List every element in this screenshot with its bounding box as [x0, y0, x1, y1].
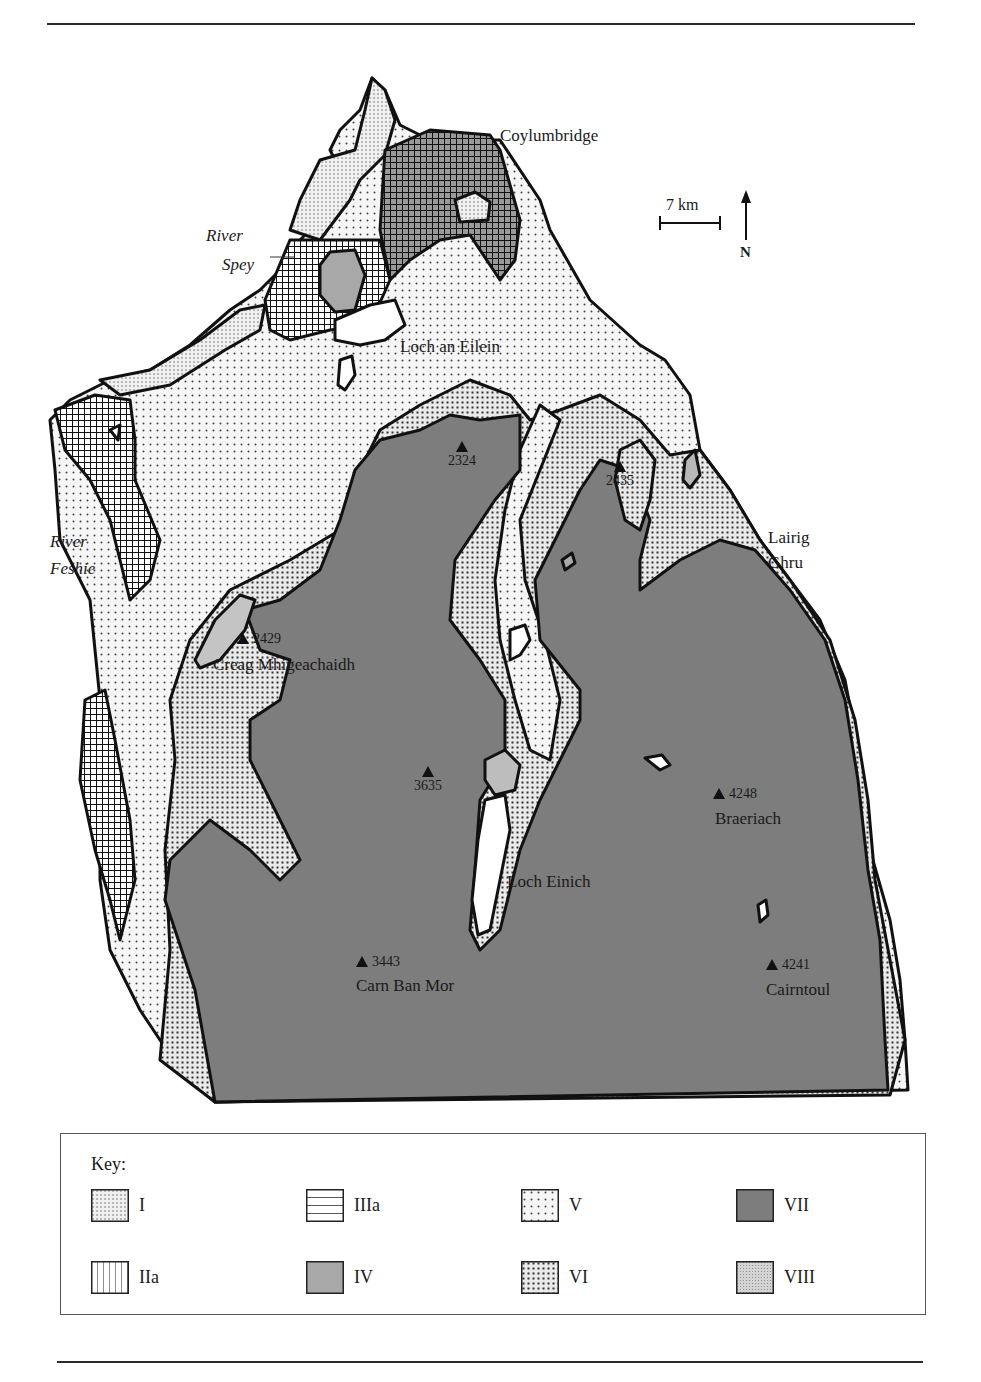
key-item-IV: IV — [306, 1261, 373, 1294]
peak-height: 4241 — [782, 957, 810, 972]
key-label: VII — [784, 1195, 809, 1216]
place-label-loch-an-eilein: Loch an Eilein — [400, 338, 500, 355]
peak-triangle-icon — [766, 959, 778, 970]
key-item-V: V — [521, 1189, 582, 1222]
north-arrow-icon — [741, 190, 751, 240]
scale-bar — [660, 216, 720, 230]
key-swatch-VIII — [736, 1261, 774, 1294]
peak-triangle-icon — [237, 633, 249, 644]
key-swatch-IIa — [91, 1261, 129, 1294]
peak-height: 2429 — [253, 631, 281, 646]
peak-4248: 4248 — [713, 787, 757, 801]
key-item-VI: VI — [521, 1261, 588, 1294]
key-label: V — [569, 1195, 582, 1216]
peak-triangle-icon — [614, 461, 626, 472]
key-label: IIIa — [354, 1195, 380, 1216]
place-label-lairig-ghru-2: Ghru — [768, 554, 803, 571]
peak-3635: 3635 — [414, 766, 442, 793]
key-item-VII: VII — [736, 1189, 809, 1222]
place-label-loch-einich: Loch Einich — [507, 873, 591, 890]
peak-height: 3443 — [372, 954, 400, 969]
north-label: N — [740, 245, 751, 260]
key-swatch-V — [521, 1189, 559, 1222]
place-label-river-feshie-1: River — [50, 533, 87, 550]
peak-height: 3635 — [414, 778, 442, 793]
place-label-braeriach: Braeriach — [715, 810, 781, 827]
peak-triangle-icon — [456, 441, 468, 452]
key-swatch-VI — [521, 1261, 559, 1294]
key-item-VIII: VIII — [736, 1261, 815, 1294]
peak-2324: 2324 — [448, 441, 476, 468]
key-swatch-IIIa — [306, 1189, 344, 1222]
scale-bar-label: 7 km — [666, 197, 698, 213]
place-label-river-spey-1: River — [206, 227, 243, 244]
peak-triangle-icon — [356, 956, 368, 967]
place-label-lairig-ghru-1: Lairig — [768, 529, 810, 546]
key-item-IIa: IIa — [91, 1261, 159, 1294]
place-label-carn-ban-mor: Carn Ban Mor — [356, 977, 454, 994]
key-title: Key: — [91, 1154, 126, 1175]
vegetation-map — [0, 0, 981, 1130]
peak-triangle-icon — [422, 766, 434, 777]
key-item-I: I — [91, 1189, 145, 1222]
key-swatch-VII — [736, 1189, 774, 1222]
place-label-river-spey-2: Spey — [222, 256, 254, 273]
key-item-IIIa: IIIa — [306, 1189, 380, 1222]
peak-height: 4248 — [729, 786, 757, 801]
key-swatch-IV — [306, 1261, 344, 1294]
peak-4241: 4241 — [766, 958, 810, 972]
bottom-rule — [57, 1361, 923, 1363]
peak-3443: 3443 — [356, 955, 400, 969]
key-label: IV — [354, 1267, 373, 1288]
peak-height: 2435 — [606, 473, 634, 488]
key-swatch-I — [91, 1189, 129, 1222]
peak-triangle-icon — [713, 788, 725, 799]
place-label-creag-mhigeachaidh: Creag Mhigeachaidh — [213, 656, 355, 673]
key-label: VI — [569, 1267, 588, 1288]
key-label: I — [139, 1195, 145, 1216]
zone-IV-spey — [320, 250, 365, 312]
key-label: IIa — [139, 1267, 159, 1288]
peak-height: 2324 — [448, 453, 476, 468]
place-label-coylumbridge: Coylumbridge — [500, 127, 598, 144]
place-label-river-feshie-2: Feshie — [50, 560, 95, 577]
peak-2435: 2435 — [606, 461, 634, 488]
map-key: Key: IIIIaVVIIIIaIVVIVIII — [60, 1133, 926, 1315]
peak-2429: 2429 — [237, 632, 281, 646]
key-label: VIII — [784, 1267, 815, 1288]
place-label-cairntoul: Cairntoul — [766, 981, 830, 998]
